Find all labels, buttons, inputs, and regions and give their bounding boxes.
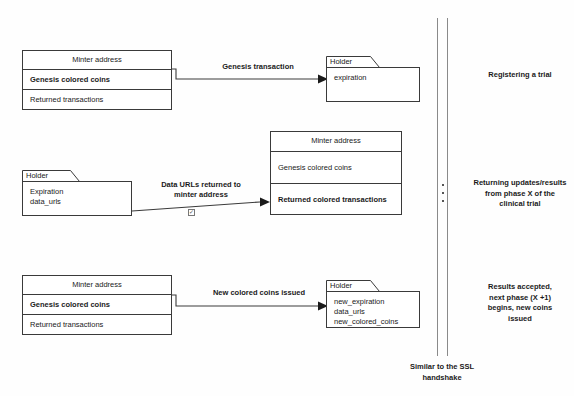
- minter-address-row-returned-colored-row2: Returned colored transactions: [271, 184, 401, 215]
- minter-address-row-genesis-row3: Genesis colored coins: [23, 295, 171, 315]
- holder-folder-row1[interactable]: Holder expiration: [326, 56, 420, 102]
- minter-address-title-row1: Minter address: [23, 51, 171, 70]
- minter-address-title-row2: Minter address: [271, 132, 401, 152]
- holder-tab-label-row3: Holder: [330, 281, 352, 290]
- holder-lines-row2: Expiration data_urls: [23, 182, 131, 207]
- holder-body-row2: Expiration data_urls: [22, 181, 132, 216]
- vertical-rail-left: [437, 18, 438, 356]
- minter-address-title-row3: Minter address: [23, 276, 171, 295]
- holder-tab-label-row1: Holder: [330, 57, 352, 66]
- side-note-returning-updates: Returning updates/results from phase X o…: [468, 178, 572, 210]
- side-note-registering-trial: Registering a trial: [468, 70, 572, 81]
- arrow-label-genesis-transaction: Genesis transaction: [198, 62, 318, 72]
- side-note-results-accepted: Results accepted, next phase (X +1) begi…: [468, 282, 572, 324]
- bottom-note-ssl-handshake: Similar to the SSL handshake: [382, 362, 502, 383]
- minter-address-box-row3[interactable]: Minter address Genesis colored coins Ret…: [22, 275, 172, 335]
- holder-tab-label-row2: Holder: [26, 171, 48, 180]
- arrow-label-data-urls-returned: Data URLs returned to minter address: [142, 180, 260, 200]
- rail-dot: [442, 200, 444, 202]
- holder-line-new-expiration-row3: new_expiration: [334, 297, 419, 307]
- holder-line-dataurls-row2: data_urls: [30, 197, 131, 207]
- minter-address-box-row2[interactable]: Minter address Genesis colored coins Ret…: [270, 131, 402, 215]
- holder-line-dataurls-row3: data_urls: [334, 307, 419, 317]
- holder-folder-row2[interactable]: Holder Expiration data_urls: [22, 170, 132, 216]
- holder-lines-row3: new_expiration data_urls new_colored_coi…: [327, 292, 419, 327]
- checkbox-icon[interactable]: ✓: [188, 209, 195, 216]
- rail-ellipsis-icon: [441, 184, 444, 202]
- holder-line-new-colored-coins-row3: new_colored_coins: [334, 317, 419, 327]
- holder-folder-row3[interactable]: Holder new_expiration data_urls new_colo…: [326, 280, 420, 328]
- holder-body-row1: expiration: [326, 67, 420, 102]
- minter-address-row-genesis-row1: Genesis colored coins: [23, 70, 171, 90]
- diagram-canvas: Minter address Genesis colored coins Ret…: [0, 0, 574, 396]
- holder-lines-row1: expiration: [327, 68, 419, 83]
- rail-dot: [442, 184, 444, 186]
- rail-dot: [442, 192, 444, 194]
- holder-line-expiration-row2: Expiration: [30, 187, 131, 197]
- arrow-label-new-colored-coins: New colored coins issued: [196, 288, 322, 298]
- holder-body-row3: new_expiration data_urls new_colored_coi…: [326, 291, 420, 328]
- minter-address-box-row1[interactable]: Minter address Genesis colored coins Ret…: [22, 50, 172, 110]
- minter-address-row-returned-row3: Returned transactions: [23, 315, 171, 334]
- vertical-rail-right: [447, 18, 448, 356]
- minter-address-row-returned-row1: Returned transactions: [23, 90, 171, 109]
- minter-address-row-genesis-row2: Genesis colored coins: [271, 152, 401, 184]
